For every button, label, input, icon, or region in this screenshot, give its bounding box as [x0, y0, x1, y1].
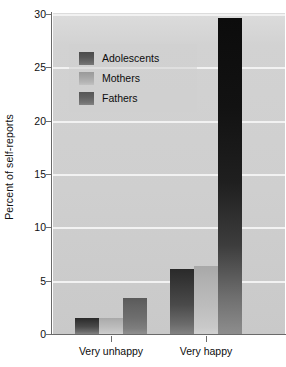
- bar-very-unhappy-adolescents: [75, 318, 99, 334]
- x-axis-label-very-unhappy: Very unhappy: [79, 345, 143, 357]
- gridline-20: [53, 121, 285, 123]
- legend-swatch-icon-mothers: [79, 72, 94, 85]
- gridline-10: [53, 227, 285, 229]
- bar-very-unhappy-fathers: [123, 298, 147, 334]
- bar-chart: Percent of self-reports 30 25 20 15 10 5…: [0, 0, 286, 367]
- bar-very-happy-adolescents: [170, 269, 194, 334]
- x-axis-label-very-happy: Very happy: [180, 345, 233, 357]
- bar-very-unhappy-mothers: [99, 318, 123, 334]
- bar-very-happy-mothers: [194, 266, 218, 334]
- legend-item-fathers: Fathers: [79, 89, 138, 107]
- y-axis-tick-label: 15: [34, 168, 46, 180]
- bar-very-happy-fathers: [218, 18, 242, 334]
- x-axis-tick-mark: [111, 336, 112, 342]
- legend-label-fathers: Fathers: [102, 92, 138, 104]
- y-axis-tick-labels: 30 25 20 15 10 5 0: [18, 0, 46, 367]
- legend: Adolescents Mothers Fathers: [69, 44, 197, 112]
- legend-label-mothers: Mothers: [102, 72, 140, 84]
- y-axis-tick-label: 25: [34, 61, 46, 73]
- gridline-15: [53, 174, 285, 176]
- plot-area: Adolescents Mothers Fathers: [53, 13, 285, 334]
- gridline-5: [53, 281, 285, 283]
- y-axis-tick-label: 20: [34, 115, 46, 127]
- legend-item-mothers: Mothers: [79, 69, 140, 87]
- legend-swatch-icon-adolescents: [79, 52, 94, 65]
- legend-swatch-icon-fathers: [79, 92, 94, 105]
- gridline-30: [53, 14, 285, 16]
- legend-label-adolescents: Adolescents: [102, 52, 159, 64]
- y-axis-tick-label: 10: [34, 221, 46, 233]
- legend-item-adolescents: Adolescents: [79, 49, 159, 67]
- y-axis-title: Percent of self-reports: [0, 0, 18, 334]
- y-axis-title-text: Percent of self-reports: [3, 114, 15, 220]
- x-axis-line: [51, 334, 286, 335]
- y-axis-tick-label: 30: [34, 8, 46, 20]
- x-axis-tick-mark: [206, 336, 207, 342]
